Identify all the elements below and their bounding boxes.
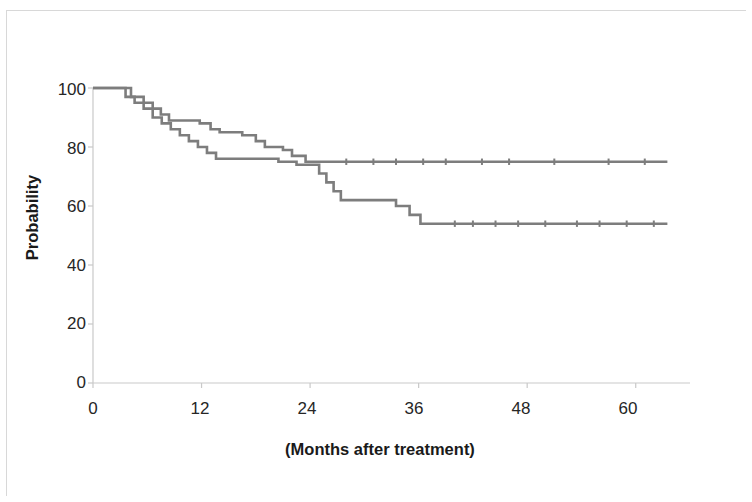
data-series-group	[93, 88, 667, 227]
x-axis-ticks	[93, 383, 636, 388]
plot-area	[0, 0, 752, 502]
chart-figure: 100 80 60 40 20 0 0 12 24 36 48 60 Proba…	[0, 0, 752, 502]
km-curve-upper-curve	[93, 88, 667, 162]
axis-lines	[93, 88, 690, 383]
y-axis-ticks	[88, 88, 93, 383]
km-curve-lower-curve	[93, 88, 667, 224]
